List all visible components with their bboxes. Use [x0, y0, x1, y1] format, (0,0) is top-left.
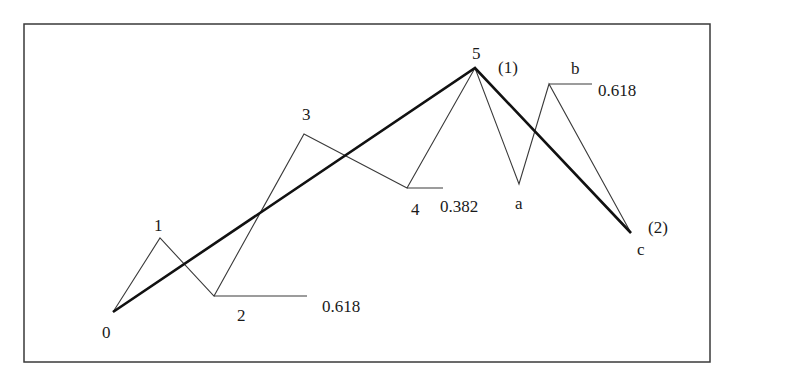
- fib-ratio-wave2: 0.618: [322, 297, 360, 316]
- label-wave-c: c: [637, 240, 645, 259]
- wave-path: [113, 68, 631, 312]
- label-degree-1: (1): [498, 58, 518, 77]
- fib-ratio-wave4: 0.382: [440, 197, 478, 216]
- label-wave-0: 0: [102, 323, 111, 342]
- label-wave-2: 2: [237, 306, 246, 325]
- label-wave-1: 1: [154, 216, 163, 235]
- elliott-wave-diagram: 0 1 2 3 4 5 a b c (1) (2) 0.618 0.382 0.…: [0, 0, 793, 382]
- trend-line: [113, 68, 631, 312]
- fib-ratio-waveb: 0.618: [598, 81, 636, 100]
- label-degree-2: (2): [648, 218, 668, 237]
- label-wave-a: a: [515, 194, 523, 213]
- label-wave-b: b: [571, 59, 580, 78]
- label-wave-5: 5: [472, 44, 481, 63]
- diagram-frame: [24, 24, 710, 362]
- label-wave-3: 3: [302, 105, 311, 124]
- label-wave-4: 4: [411, 200, 420, 219]
